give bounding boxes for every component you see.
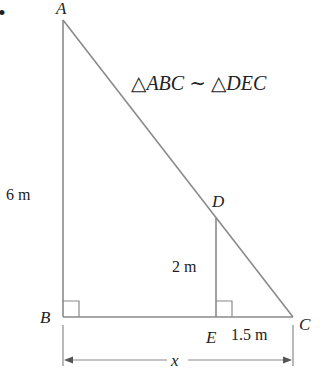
measurement-DE: 2 m xyxy=(172,258,197,275)
right-angle-B-icon xyxy=(63,301,79,317)
arrowhead-right-icon xyxy=(283,357,292,364)
point-label-A: A xyxy=(55,0,67,18)
point-label-D: D xyxy=(211,192,225,211)
point-label-C: C xyxy=(299,315,311,334)
similar-triangles-diagram: • A B C D E 6 m 2 m 1.5 m x △ABC ∼ △DEC xyxy=(0,0,326,382)
measurement-EC: 1.5 m xyxy=(231,326,268,343)
measurement-BC-x: x xyxy=(170,351,179,370)
point-label-E: E xyxy=(205,328,217,347)
point-label-B: B xyxy=(40,308,51,327)
measurement-AB: 6 m xyxy=(6,186,31,203)
arrowhead-left-icon xyxy=(64,357,73,364)
bullet-marker: • xyxy=(0,0,6,25)
similarity-statement: △ABC ∼ △DEC xyxy=(131,72,267,94)
right-angle-E-icon xyxy=(216,301,232,317)
